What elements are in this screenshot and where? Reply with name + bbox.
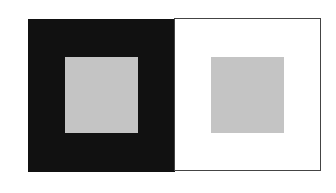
dark-background-panel	[28, 19, 175, 172]
light-background-panel	[174, 18, 321, 171]
gray-square-on-light	[211, 57, 284, 133]
gray-square-on-dark	[65, 57, 138, 133]
